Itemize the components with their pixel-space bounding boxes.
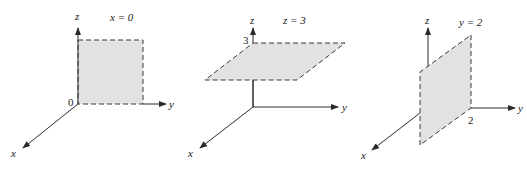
plane-x0	[78, 40, 143, 104]
x-axis-label: x	[360, 149, 366, 161]
planes-diagram: z y x 0 x = 0 z y x 3 z = 3 z y x 2 y = …	[0, 0, 527, 172]
panel-z-equals-3: z y x 3 z = 3	[187, 14, 347, 159]
x-axis-label: x	[10, 147, 16, 159]
panel-y-equals-2: z y x 2 y = 2	[360, 14, 523, 161]
origin-label: 0	[68, 96, 74, 108]
panel-title: y = 2	[458, 16, 483, 28]
panel-title: z = 3	[282, 14, 306, 26]
z-axis-label: z	[249, 14, 255, 26]
plane-z3	[205, 43, 345, 80]
x-axis	[200, 107, 253, 148]
y-value-label: 2	[468, 114, 474, 126]
y-axis-label: y	[168, 98, 174, 110]
panel-title: x = 0	[109, 11, 134, 23]
x-axis	[372, 113, 420, 150]
panel-x-equals-0: z y x 0 x = 0	[10, 10, 174, 159]
height-label: 3	[243, 34, 249, 46]
y-axis-label: y	[341, 101, 347, 113]
z-axis-label: z	[74, 10, 80, 22]
y-axis-label: y	[517, 102, 523, 114]
x-axis	[23, 104, 78, 148]
x-axis-label: x	[187, 147, 193, 159]
z-axis-label: z	[424, 14, 430, 26]
